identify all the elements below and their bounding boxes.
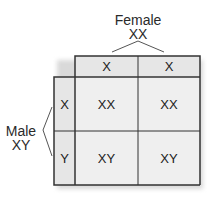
male-label: Male XY xyxy=(0,124,42,152)
female-genotype: XX xyxy=(108,27,168,41)
male-label-text: Male xyxy=(0,124,42,138)
male-genotype: XY xyxy=(0,138,42,152)
grid-lines xyxy=(0,0,214,200)
female-label-text: Female xyxy=(108,13,168,27)
female-label: Female XX xyxy=(108,13,168,41)
